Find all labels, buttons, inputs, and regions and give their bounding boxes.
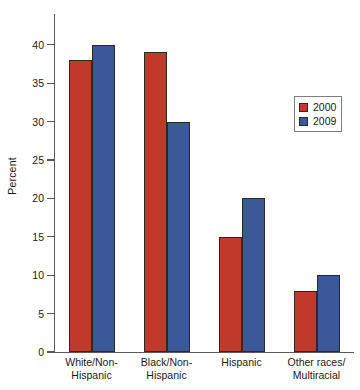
plot-area [54, 14, 354, 352]
y-axis-tick [47, 351, 54, 352]
bar [317, 275, 340, 352]
y-axis-tick-label: 5 [14, 309, 44, 320]
y-axis-tick [47, 313, 54, 314]
bar [92, 45, 115, 352]
y-axis-tick-label: 15 [14, 232, 44, 243]
bar [167, 122, 190, 352]
bar [69, 60, 92, 352]
category-label-line: Multiracial [257, 369, 360, 382]
y-axis-label: Percent [2, 0, 22, 352]
category-label-line: Hispanic [107, 369, 227, 382]
y-axis-tick [47, 44, 54, 45]
y-axis-tick-label: 40 [14, 40, 44, 51]
bar [294, 291, 317, 352]
bar [144, 52, 167, 352]
y-axis-tick [47, 198, 54, 199]
y-axis-tick-label: 20 [14, 193, 44, 204]
y-axis-tick-label: 30 [14, 117, 44, 128]
bar [242, 198, 265, 352]
y-axis-tick-label: 10 [14, 270, 44, 281]
y-axis-tick-label: 35 [14, 78, 44, 89]
y-axis-tick [47, 159, 54, 160]
y-axis-tick [47, 121, 54, 122]
y-axis-tick [47, 83, 54, 84]
legend-item[interactable]: 2000 [299, 100, 336, 114]
y-axis-tick [47, 236, 54, 237]
x-axis-category-label: Other races/Multiracial [257, 356, 360, 382]
legend-item-label: 2000 [313, 102, 336, 113]
category-label-line: Other races/ [288, 356, 346, 368]
legend-swatch-icon [299, 103, 308, 112]
y-axis-tick-label: 25 [14, 155, 44, 166]
bar [219, 237, 242, 352]
bar-chart: Percent 0510152025303540 White/Non-Hispa… [0, 0, 360, 390]
legend: 2000 2009 [294, 96, 342, 132]
legend-swatch-icon [299, 117, 308, 126]
legend-item-label: 2009 [313, 116, 336, 127]
y-axis-tick [47, 275, 54, 276]
legend-item[interactable]: 2009 [299, 114, 336, 128]
